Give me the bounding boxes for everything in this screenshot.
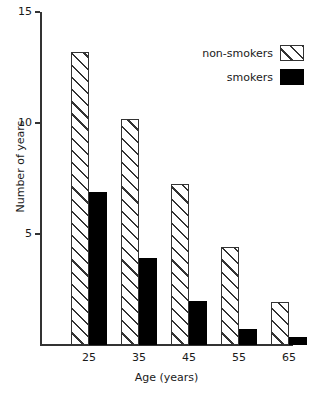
- y-tick-mark: [35, 233, 40, 235]
- legend-item-smokers: smokers: [172, 68, 304, 86]
- legend: non-smokers smokers: [172, 44, 304, 92]
- bar-non-smokers-25: [71, 52, 89, 345]
- bar-non-smokers-55: [221, 247, 239, 345]
- x-axis-title: Age (years): [40, 371, 293, 384]
- y-tick-label: 15: [2, 6, 32, 17]
- x-tick-label-35: 35: [117, 351, 161, 364]
- bar-smokers-55: [239, 329, 257, 345]
- bar-smokers-45: [189, 301, 207, 345]
- x-tick-label-65: 65: [267, 351, 311, 364]
- bar-smokers-25: [89, 192, 107, 345]
- bar-smokers-65: [289, 337, 307, 345]
- x-tick-label-45: 45: [167, 351, 211, 364]
- legend-label-smokers: smokers: [227, 71, 273, 84]
- bar-smokers-35: [139, 258, 157, 345]
- bar-non-smokers-35: [121, 119, 139, 345]
- legend-label-non-smokers: non-smokers: [202, 47, 273, 60]
- bar-non-smokers-65: [271, 302, 289, 345]
- y-axis-line: [40, 12, 42, 346]
- y-tick-mark: [35, 11, 40, 13]
- legend-item-non-smokers: non-smokers: [172, 44, 304, 62]
- bar-chart: 51015 2535455565 Age (years) Number of y…: [0, 0, 311, 396]
- x-tick-label-55: 55: [217, 351, 261, 364]
- bar-non-smokers-45: [171, 184, 189, 345]
- y-tick-mark: [35, 122, 40, 124]
- legend-swatch-solid-icon: [280, 69, 304, 85]
- x-tick-label-25: 25: [67, 351, 111, 364]
- y-axis-title: Number of years: [14, 102, 27, 232]
- legend-swatch-hatched-icon: [280, 45, 304, 61]
